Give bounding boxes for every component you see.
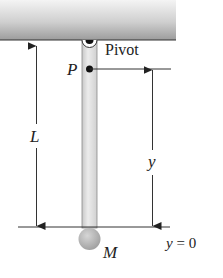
baseline-label: y = 0 xyxy=(164,235,196,251)
length-label: L xyxy=(29,127,39,146)
ceiling xyxy=(0,0,176,40)
point-p-label: P xyxy=(66,60,77,79)
pivot-label: Pivot xyxy=(105,41,139,58)
point-p-marker xyxy=(86,66,171,73)
mass-label: M xyxy=(102,243,118,262)
height-label: y xyxy=(146,152,156,171)
mass-ball xyxy=(79,228,101,250)
pendulum-diagram: Pivot P L y M y = 0 xyxy=(0,0,223,278)
